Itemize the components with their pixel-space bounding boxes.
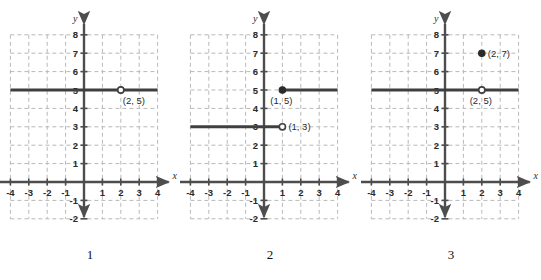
x-tick-label: 1 <box>461 187 467 198</box>
x-tick-label: 1 <box>280 187 286 198</box>
x-tick-label: -4 <box>367 187 376 198</box>
point-coordinate-label: (2, 5) <box>123 95 145 106</box>
y-tick-label: 4 <box>434 103 440 114</box>
x-axis-label: x <box>533 170 539 181</box>
x-tick-label: -2 <box>223 187 231 198</box>
y-tick-label: 3 <box>434 121 439 132</box>
y-axis-label: y <box>252 13 258 24</box>
point-coordinate-label: (2, 7) <box>488 48 510 59</box>
y-tick-label: 6 <box>73 66 78 77</box>
plotted-points: (2, 7)(2, 5) <box>470 48 510 106</box>
y-tick-label: 3 <box>73 121 78 132</box>
x-tick-label: -3 <box>205 187 213 198</box>
panel-caption: 1 <box>0 247 180 263</box>
coordinate-plane-2: -4-3-2-1123487654321-1-2xy(1, 5)(1, 3) <box>180 0 360 280</box>
y-tick-label: 8 <box>253 29 258 40</box>
y-tick-label: 4 <box>253 103 259 114</box>
open-circle-point <box>118 87 124 93</box>
y-axis-label: y <box>72 13 78 24</box>
graph-panel-3: -4-3-2-1123487654321-1-2xy(2, 7)(2, 5)3 <box>361 0 541 280</box>
open-circle-point <box>479 87 485 93</box>
x-tick-label: -2 <box>404 187 412 198</box>
y-tick-label: -2 <box>250 213 258 224</box>
graph-panel-1: -4-3-2-1123487654321-1-2xy(2, 5)1 <box>0 0 180 280</box>
panel-caption: 3 <box>361 247 541 263</box>
open-circle-point <box>279 124 285 130</box>
x-tick-label: -2 <box>43 187 51 198</box>
y-tick-label: 4 <box>73 103 79 114</box>
x-axis-label: x <box>352 170 358 181</box>
point-coordinate-label: (1, 3) <box>288 121 310 132</box>
graph-panel-2: -4-3-2-1123487654321-1-2xy(1, 5)(1, 3)2 <box>180 0 360 280</box>
x-tick-label: 2 <box>118 187 123 198</box>
x-tick-label: 2 <box>479 187 484 198</box>
figure-container: -4-3-2-1123487654321-1-2xy(2, 5)1-4-3-2-… <box>0 0 541 280</box>
y-tick-label: 6 <box>253 66 258 77</box>
panel-caption: 2 <box>180 247 360 263</box>
y-axis-label: y <box>433 13 439 24</box>
y-tick-label: -2 <box>431 213 439 224</box>
x-tick-label: 2 <box>298 187 303 198</box>
x-tick-label: -3 <box>25 187 33 198</box>
y-tick-label: 1 <box>434 158 440 169</box>
coordinate-plane-3: -4-3-2-1123487654321-1-2xy(2, 7)(2, 5) <box>361 0 541 280</box>
x-tick-label: -4 <box>186 187 195 198</box>
x-tick-label: 3 <box>498 187 503 198</box>
coordinate-plane-1: -4-3-2-1123487654321-1-2xy(2, 5) <box>0 0 180 280</box>
x-tick-label: 1 <box>100 187 106 198</box>
y-tick-label: 5 <box>253 85 259 96</box>
y-tick-label: 6 <box>434 66 439 77</box>
y-tick-label: 1 <box>73 158 79 169</box>
y-tick-label: -1 <box>70 195 79 206</box>
filled-circle-point <box>279 87 285 93</box>
x-tick-label: -3 <box>386 187 394 198</box>
x-tick-label: 4 <box>335 187 341 198</box>
point-coordinate-label: (1, 5) <box>270 95 292 106</box>
y-tick-label: 8 <box>434 29 439 40</box>
y-tick-label: -1 <box>431 195 440 206</box>
x-tick-label: -4 <box>6 187 15 198</box>
y-tick-label: 7 <box>434 48 439 59</box>
y-tick-label: 8 <box>73 29 78 40</box>
y-tick-label: 1 <box>253 158 259 169</box>
x-tick-label: 3 <box>137 187 142 198</box>
x-tick-label: 4 <box>155 187 161 198</box>
y-tick-label: -2 <box>70 213 78 224</box>
point-coordinate-label: (2, 5) <box>470 95 492 106</box>
y-tick-label: 2 <box>253 140 258 151</box>
x-tick-label: 3 <box>317 187 322 198</box>
x-axis-label: x <box>172 170 178 181</box>
x-tick-label: 4 <box>516 187 522 198</box>
filled-circle-point <box>479 50 485 56</box>
y-tick-label: -1 <box>250 195 259 206</box>
y-tick-label: 2 <box>434 140 439 151</box>
y-tick-label: 2 <box>73 140 78 151</box>
y-tick-label: 7 <box>253 48 258 59</box>
y-tick-label: 7 <box>73 48 78 59</box>
